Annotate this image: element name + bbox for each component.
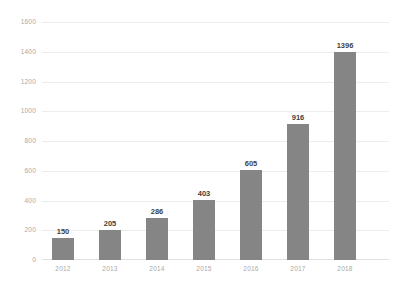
y-axis-tick-label: 1000 <box>6 108 36 115</box>
x-axis-tick-label-2016: 2016 <box>231 266 271 273</box>
y-axis-tick-label: 1600 <box>6 19 36 26</box>
y-axis-tick-label: 1200 <box>6 78 36 85</box>
bar-value-2017: 916 <box>278 114 318 122</box>
bar-2018[interactable] <box>334 52 356 260</box>
bar-value-2013: 205 <box>90 220 130 228</box>
bar-2014[interactable] <box>146 218 168 261</box>
x-axis-tick-label-2018: 2018 <box>325 266 365 273</box>
x-axis-tick-label-2012: 2012 <box>43 266 83 273</box>
x-axis-tick-label-2014: 2014 <box>137 266 177 273</box>
y-axis-tick-label: 600 <box>6 168 36 175</box>
bar-value-2014: 286 <box>137 208 177 216</box>
x-axis-tick-label-2013: 2013 <box>90 266 130 273</box>
bar-2015[interactable] <box>193 200 215 260</box>
y-axis-tick-label: 800 <box>6 138 36 145</box>
bar-2013[interactable] <box>99 230 121 261</box>
bar-2017[interactable] <box>287 124 309 260</box>
y-axis-tick-label: 200 <box>6 227 36 234</box>
gridline <box>42 22 389 23</box>
bar-chart: 1600 1400 1200 1000 800 600 400 200 0 15… <box>0 0 402 289</box>
y-axis-tick-label: 1400 <box>6 49 36 56</box>
y-axis-tick-label: 0 <box>6 257 36 264</box>
y-axis-tick-label: 400 <box>6 197 36 204</box>
bar-value-2012: 150 <box>43 228 83 236</box>
bar-value-2016: 605 <box>231 160 271 168</box>
x-axis-tick-label-2015: 2015 <box>184 266 224 273</box>
bar-2016[interactable] <box>240 170 262 260</box>
bar-2012[interactable] <box>52 238 74 260</box>
bar-value-2015: 403 <box>184 190 224 198</box>
x-axis-tick-label-2017: 2017 <box>278 266 318 273</box>
bar-value-2018: 1396 <box>325 42 365 50</box>
